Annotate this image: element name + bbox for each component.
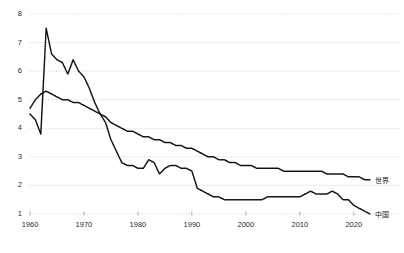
xtick-label-1970: 1970 [67,220,101,229]
series-paths-group [30,28,370,214]
xtick-label-1960: 1960 [13,220,47,229]
ytick-label-4: 4 [8,123,22,132]
fertility-rate-line-chart: 12345678 1960197019801990200020102020 中国… [0,0,404,253]
gridlines-group [30,14,400,214]
series-label-world: 世界 [375,175,390,185]
xtick-label-2020: 2020 [337,220,371,229]
chart-plot-area [0,0,404,253]
ytick-label-1: 1 [8,209,22,218]
series-line-world [30,91,370,180]
xtick-label-2010: 2010 [283,220,317,229]
ytick-label-6: 6 [8,66,22,75]
ytick-label-8: 8 [8,9,22,18]
xtick-label-1980: 1980 [121,220,155,229]
series-label-china: 中国 [375,209,390,219]
ytick-label-3: 3 [8,152,22,161]
xtick-label-2000: 2000 [229,220,263,229]
xtick-label-1990: 1990 [175,220,209,229]
ytick-label-7: 7 [8,38,22,47]
series-line-china [30,28,370,214]
xtick-marks-group [30,212,354,216]
ytick-label-5: 5 [8,95,22,104]
ytick-label-2: 2 [8,180,22,189]
